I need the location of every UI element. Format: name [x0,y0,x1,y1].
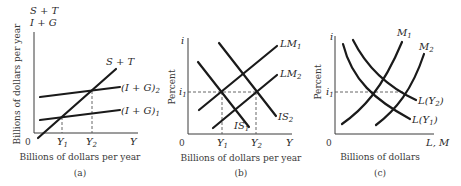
x-axis-title: Billions of dollars per year [181,153,303,163]
ig1-curve [40,110,120,120]
m2-label: M2 [418,41,434,54]
y1-tick: Y1 [57,136,68,149]
panel-a: S + T I + G Billions of dollars per year… [12,5,160,178]
y-axis-title: Percent [313,64,323,99]
panel-caption: (a) [74,168,86,178]
y-top-label-st: S + T [30,5,60,16]
origin-label: 0 [326,138,332,148]
ig1-label: (I + G)1 [121,105,160,118]
y-axis-title: Billions of dollars per year [12,23,22,145]
x-end-label: Y [286,137,294,148]
is1-label: IS1 [233,120,249,133]
origin-label: 0 [179,138,185,148]
is2-label: IS2 [277,111,294,124]
y2-tick: Y2 [86,136,98,149]
x-end-label: L, M [425,137,450,148]
i1-tick: i1 [179,86,187,99]
ig2-label: (I + G)2 [121,82,160,95]
ig2-curve [40,87,120,97]
y-top-label-ig: I + G [29,17,57,28]
lm2-curve [213,75,277,128]
m1-curve [342,42,402,124]
panel-c: i Percent i1 M1 M2 L(Y2) L(Y1) 0 L, M Bi… [313,27,450,178]
ly1-curve [343,44,410,119]
lm2-label: LM2 [279,68,302,81]
m1-label: M1 [396,27,412,40]
y-axis-label: i [330,31,333,42]
ly1-label: L(Y1) [411,114,438,127]
y1-tick: Y1 [217,137,228,150]
x-end-label: Y [130,136,138,147]
origin-label: 0 [25,137,31,147]
st-curve [38,69,116,138]
y-axis-label: i [181,35,184,46]
panel-caption: (c) [374,168,386,178]
x-axis-title: Billions of dollars [340,152,420,162]
panel-b: i Percent i1 LM1 LM2 IS2 IS1 0 Y1 Y2 Y B… [167,35,302,178]
ly2-label: L(Y2) [417,95,444,108]
x-axis-title: Billions of dollars per year [20,152,142,162]
lm1-label: LM1 [279,38,301,51]
economics-figure: S + T I + G Billions of dollars per year… [0,0,461,186]
y-axis-title: Percent [167,69,177,104]
i1-tick: i1 [326,86,334,99]
panel-caption: (b) [235,168,248,178]
y2-tick: Y2 [251,137,263,150]
st-label: S + T [106,56,136,67]
